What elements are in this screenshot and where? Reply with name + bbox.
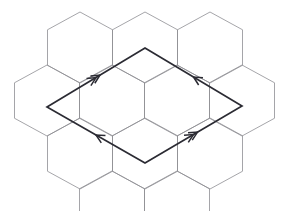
- hex-tiling-canvas: [0, 0, 290, 211]
- hex-tiling-figure: [0, 0, 290, 211]
- figure-background: [0, 0, 290, 211]
